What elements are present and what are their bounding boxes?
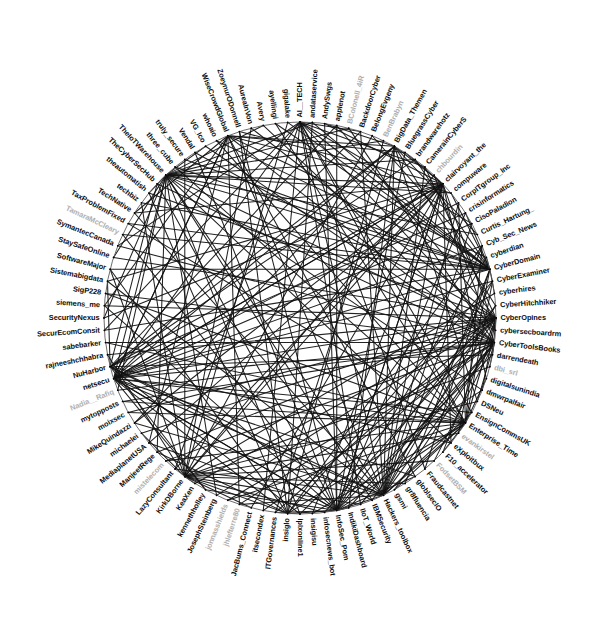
node-label[interactable]: dbi_srl [493,363,518,378]
graph-node[interactable] [442,183,444,185]
graph-node[interactable] [433,460,435,462]
graph-node[interactable] [287,513,289,515]
node-label[interactable]: Avery [255,100,268,122]
graph-node[interactable] [103,305,105,307]
graph-node[interactable] [495,305,497,307]
graph-node[interactable] [404,483,406,485]
graph-node[interactable] [465,422,467,424]
node-label[interactable]: iplxonline1 [296,519,305,557]
graph-node[interactable] [122,234,124,236]
graph-node[interactable] [262,510,264,512]
graph-node[interactable] [216,140,218,142]
graph-node[interactable] [156,451,158,453]
graph-node[interactable] [458,202,460,204]
graph-node[interactable] [433,174,435,176]
node-label[interactable]: applenot [333,90,348,122]
graph-node[interactable] [109,268,111,270]
graph-node[interactable] [476,234,478,236]
graph-node[interactable] [471,223,473,225]
graph-node[interactable] [481,245,483,247]
graph-node[interactable] [127,412,129,414]
graph-node[interactable] [262,125,264,127]
graph-node[interactable] [324,512,326,514]
graph-node[interactable] [148,442,150,444]
graph-node[interactable] [134,212,136,214]
node-label[interactable]: gigalake [282,88,293,118]
graph-node[interactable] [117,389,119,391]
graph-node[interactable] [117,245,119,247]
graph-node[interactable] [165,174,167,176]
graph-node[interactable] [494,342,496,344]
graph-node[interactable] [184,159,186,161]
graph-node[interactable] [275,123,277,125]
graph-node[interactable] [275,512,277,514]
graph-node[interactable] [299,121,301,123]
graph-node[interactable] [141,202,143,204]
graph-node[interactable] [348,127,350,129]
graph-node[interactable] [311,513,313,515]
graph-node[interactable] [383,140,385,142]
graph-node[interactable] [127,223,129,225]
graph-node[interactable] [481,389,483,391]
node-label[interactable]: insigisu [309,518,320,547]
graph-node[interactable] [471,412,473,414]
graph-node[interactable] [489,366,491,368]
graph-node[interactable] [194,152,196,154]
node-label[interactable]: andataservice [308,69,320,118]
node-label[interactable]: CyberHitchhiker [500,297,557,310]
node-label[interactable]: cybersecboardrm [500,326,562,339]
graph-node[interactable] [205,145,207,147]
node-label[interactable]: AI__TECH [295,82,304,117]
graph-node[interactable] [184,476,186,478]
graph-node[interactable] [414,476,416,478]
graph-node[interactable] [103,317,105,319]
graph-node[interactable] [442,451,444,453]
node-label[interactable]: AndySwgs [320,81,334,119]
node-label[interactable]: infosecnews_bot [321,516,337,576]
node-label[interactable]: siemens_me [56,298,100,310]
graph-node[interactable] [250,127,252,129]
graph-node[interactable] [165,460,167,462]
node-label[interactable]: CyberOpines [501,313,546,322]
graph-node[interactable] [492,280,494,282]
graph-node[interactable] [174,166,176,168]
graph-node[interactable] [299,513,301,515]
graph-node[interactable] [360,131,362,133]
graph-node[interactable] [495,329,497,331]
graph-node[interactable] [414,159,416,161]
graph-node[interactable] [492,354,494,356]
graph-node[interactable] [287,121,289,123]
graph-node[interactable] [105,342,107,344]
graph-node[interactable] [336,125,338,127]
graph-node[interactable] [227,499,229,501]
graph-node[interactable] [324,123,326,125]
graph-node[interactable] [122,401,124,403]
graph-node[interactable] [107,280,109,282]
graph-node[interactable] [360,504,362,506]
graph-node[interactable] [239,504,241,506]
graph-node[interactable] [336,510,338,512]
graph-node[interactable] [105,293,107,295]
graph-node[interactable] [486,378,488,380]
graph-node[interactable] [227,135,229,137]
graph-node[interactable] [371,135,373,137]
node-label[interactable]: ayellingi [267,90,280,120]
node-label[interactable]: SecurityNexus [49,313,100,322]
graph-node[interactable] [109,366,111,368]
node-label[interactable]: sabebarker [62,338,102,352]
graph-node[interactable] [194,483,196,485]
graph-node[interactable] [476,401,478,403]
graph-node[interactable] [450,192,452,194]
node-label[interactable]: itsecondex [250,513,266,553]
graph-node[interactable] [156,183,158,185]
graph-node[interactable] [450,442,452,444]
graph-node[interactable] [371,499,373,501]
graph-node[interactable] [205,489,207,491]
graph-node[interactable] [404,152,406,154]
graph-node[interactable] [458,432,460,434]
node-label[interactable]: cyberhires [498,283,536,297]
graph-node[interactable] [216,494,218,496]
graph-node[interactable] [494,293,496,295]
graph-node[interactable] [239,131,241,133]
graph-node[interactable] [424,166,426,168]
